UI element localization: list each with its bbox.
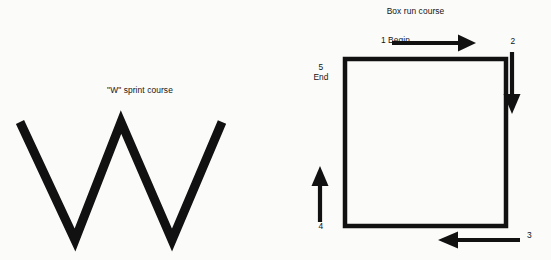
box-step-5-text: End — [313, 72, 328, 82]
box-step-4-label: 4 — [310, 222, 332, 232]
arrow-step-3-left — [438, 232, 520, 249]
course-diagrams-figure: "W" sprint course Box run course — [0, 0, 551, 260]
box-step-2-label: 2 — [502, 37, 524, 47]
box-course-square — [345, 59, 506, 226]
arrow-step-4-up — [312, 166, 329, 222]
w-sprint-course-panel: "W" sprint course — [0, 0, 280, 260]
box-step-5-end-label: 5 End — [308, 62, 334, 83]
w-sprint-course-drawing — [0, 0, 280, 260]
w-shape-path — [20, 122, 222, 240]
box-step-3-label: 3 — [527, 231, 545, 241]
box-run-course-panel: Box run course — [280, 0, 551, 260]
box-step-1-begin-label: 1 Begin — [358, 36, 410, 46]
box-step-5-number: 5 — [319, 62, 324, 72]
